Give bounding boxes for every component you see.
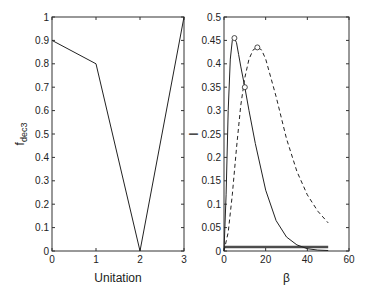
left-plot: 012300.10.20.30.40.50.60.70.80.91Unitati… <box>13 12 187 286</box>
x-tick-label: 3 <box>181 254 187 265</box>
marker-circle <box>242 85 247 90</box>
y-tick-label: 0.4 <box>207 58 221 69</box>
x-tick-label: 60 <box>343 254 355 265</box>
y-tick-label: 1 <box>43 12 49 23</box>
y-tick-label: 0.2 <box>207 152 221 163</box>
y-tick-label: 0.1 <box>207 199 221 210</box>
axes-box <box>52 17 184 251</box>
x-tick-label: 0 <box>221 254 227 265</box>
x-tick-label: 0 <box>49 254 55 265</box>
y-axis-label: I <box>187 132 201 135</box>
marker-circle <box>255 45 260 50</box>
y-axis-label: fdec3 <box>13 123 29 146</box>
y-tick-label: 0.3 <box>207 105 221 116</box>
y-tick-label: 0.5 <box>35 129 49 140</box>
y-tick-label: 0 <box>215 246 221 257</box>
x-tick-label: 40 <box>302 254 314 265</box>
y-tick-label: 0.2 <box>35 199 49 210</box>
series-solid <box>224 38 328 251</box>
right-plot: 020406000.050.10.150.20.250.30.350.40.45… <box>187 12 355 286</box>
y-tick-label: 0.4 <box>35 152 49 163</box>
y-tick-label: 0 <box>43 246 49 257</box>
x-tick-label: 2 <box>137 254 143 265</box>
y-tick-label: 0.3 <box>35 175 49 186</box>
y-tick-label: 0.1 <box>35 222 49 233</box>
y-tick-label: 0.45 <box>202 35 222 46</box>
axes-box <box>224 17 349 251</box>
y-tick-label: 0.6 <box>35 105 49 116</box>
x-axis-label: Unitation <box>94 271 141 285</box>
x-tick-label: 20 <box>260 254 272 265</box>
y-tick-label: 0.8 <box>35 58 49 69</box>
y-tick-label: 0.35 <box>202 82 222 93</box>
y-tick-label: 0.25 <box>202 129 222 140</box>
y-tick-label: 0.05 <box>202 222 222 233</box>
x-axis-label: β <box>283 271 290 285</box>
x-tick-label: 1 <box>93 254 99 265</box>
figure: 012300.10.20.30.40.50.60.70.80.91Unitati… <box>0 0 368 295</box>
series-f_dec3 <box>52 17 184 251</box>
y-tick-label: 0.9 <box>35 35 49 46</box>
y-tick-label: 0.5 <box>207 12 221 23</box>
y-tick-label: 0.15 <box>202 175 222 186</box>
marker-circle <box>232 36 237 41</box>
y-tick-label: 0.7 <box>35 82 49 93</box>
